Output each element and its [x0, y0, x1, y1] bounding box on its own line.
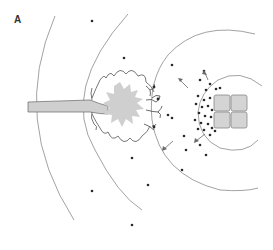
molecule — [205, 89, 208, 92]
terminal-3 — [146, 106, 162, 118]
molecule — [205, 154, 208, 157]
arrowhead-up-left — [178, 78, 183, 82]
molecule — [203, 99, 206, 102]
molecule — [219, 87, 222, 90]
molecule — [199, 79, 202, 82]
target-cell-4 — [231, 112, 247, 128]
molecule — [194, 119, 197, 122]
target-cell-3 — [214, 112, 230, 128]
molecule — [123, 57, 126, 60]
terminal-dot-4 — [153, 126, 156, 129]
molecule — [91, 20, 94, 23]
synaptic-terminals — [144, 84, 162, 130]
molecule — [181, 169, 184, 172]
molecule — [211, 109, 214, 112]
molecule — [201, 106, 204, 109]
molecule — [207, 105, 210, 108]
diffusion-diagram — [0, 0, 273, 250]
released-molecules — [91, 20, 222, 227]
molecule — [209, 97, 212, 100]
arrow-up-left — [180, 80, 188, 88]
target-cell-1 — [214, 95, 230, 111]
molecule — [211, 127, 214, 130]
axon — [28, 100, 108, 114]
terminal-dot-1 — [153, 86, 156, 89]
molecule — [198, 112, 201, 115]
terminal-dot-2 — [157, 98, 160, 101]
molecule — [185, 149, 188, 152]
molecule — [214, 130, 217, 133]
molecule — [131, 157, 134, 160]
diffusion-arrows — [162, 70, 208, 151]
molecule — [197, 95, 200, 98]
molecule — [183, 135, 186, 138]
molecule — [209, 83, 212, 86]
molecule — [91, 190, 94, 193]
spike-burst-soma — [103, 82, 144, 127]
molecule — [204, 115, 207, 118]
molecule — [209, 134, 212, 137]
molecule — [131, 224, 134, 227]
molecule — [195, 103, 198, 106]
membrane-edge-top — [91, 88, 92, 100]
molecule — [167, 114, 170, 117]
molecule — [171, 64, 174, 67]
molecule — [203, 129, 206, 132]
target-cell-grid — [214, 95, 247, 128]
molecule — [197, 128, 200, 131]
outer-arc-1 — [36, 16, 74, 220]
molecule — [147, 184, 150, 187]
molecule — [207, 123, 210, 126]
molecule — [199, 144, 202, 147]
molecule — [171, 117, 174, 120]
target-cell-2 — [231, 95, 247, 111]
molecule — [210, 116, 213, 119]
molecule — [215, 88, 218, 91]
molecule — [200, 122, 203, 125]
